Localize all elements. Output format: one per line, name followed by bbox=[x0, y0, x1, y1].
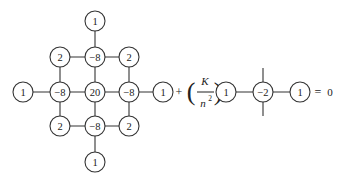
node-upper-middle: −8 bbox=[85, 47, 105, 67]
node-small-left: 1 bbox=[216, 82, 236, 102]
node-far-left: 1 bbox=[13, 82, 33, 102]
coef-numerator: K bbox=[200, 75, 209, 87]
svg-text:1: 1 bbox=[297, 87, 302, 98]
coef-denominator: n bbox=[200, 97, 206, 109]
node-lower-left: 2 bbox=[50, 116, 70, 136]
node-upper-left: 2 bbox=[50, 47, 70, 67]
rhs-zero: 0 bbox=[327, 86, 333, 98]
svg-text:−8: −8 bbox=[54, 87, 65, 98]
plus-sign: + bbox=[176, 85, 183, 99]
svg-text:2: 2 bbox=[126, 121, 131, 132]
node-middle-left: −8 bbox=[50, 82, 70, 102]
coef-exponent: 2 bbox=[208, 94, 212, 103]
node-bottom: 1 bbox=[85, 152, 105, 172]
svg-text:−8: −8 bbox=[89, 52, 100, 63]
node-top: 1 bbox=[85, 11, 105, 31]
svg-text:2: 2 bbox=[57, 121, 62, 132]
equals-sign: = bbox=[315, 85, 322, 99]
svg-text:1: 1 bbox=[92, 16, 97, 27]
svg-text:2: 2 bbox=[126, 52, 131, 63]
svg-text:1: 1 bbox=[160, 87, 165, 98]
svg-text:−2: −2 bbox=[257, 87, 268, 98]
svg-text:−8: −8 bbox=[123, 87, 134, 98]
svg-text:−8: −8 bbox=[89, 121, 100, 132]
node-middle-right: −8 bbox=[119, 82, 139, 102]
svg-text:20: 20 bbox=[90, 87, 101, 98]
left-paren: ( bbox=[187, 77, 196, 106]
node-small-right: 1 bbox=[290, 82, 310, 102]
node-lower-right: 2 bbox=[119, 116, 139, 136]
node-far-right: 1 bbox=[153, 82, 173, 102]
stencil-equation-diagram: 1 2 −8 2 1 −8 20 −8 1 2 −8 2 1 + ( K n 2… bbox=[0, 0, 342, 184]
svg-text:2: 2 bbox=[57, 52, 62, 63]
node-lower-middle: −8 bbox=[85, 116, 105, 136]
node-center: 20 bbox=[85, 82, 105, 102]
node-small-center: −2 bbox=[253, 82, 273, 102]
svg-text:1: 1 bbox=[92, 157, 97, 168]
node-upper-right: 2 bbox=[119, 47, 139, 67]
svg-text:1: 1 bbox=[223, 87, 228, 98]
svg-text:1: 1 bbox=[20, 87, 25, 98]
